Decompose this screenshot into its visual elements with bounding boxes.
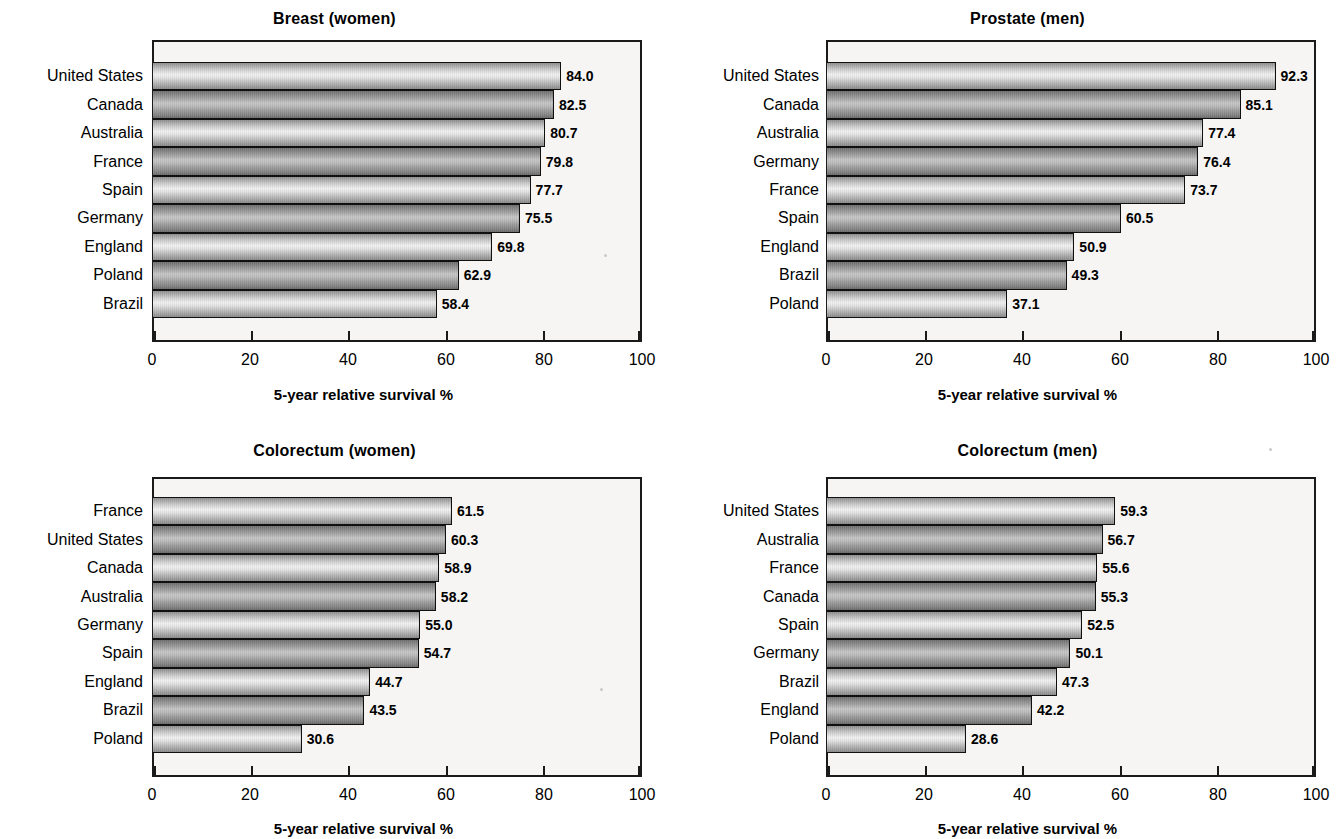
category-label: Australia xyxy=(0,582,150,610)
bar[interactable]: 69.8 xyxy=(153,233,492,261)
bar[interactable]: 42.2 xyxy=(827,696,1032,724)
bar-row: 85.1 xyxy=(828,90,1314,118)
bar[interactable]: 62.9 xyxy=(153,261,459,289)
bar[interactable]: 30.6 xyxy=(153,725,302,753)
chart-title: Prostate (men) xyxy=(669,10,1338,28)
bar[interactable]: 50.9 xyxy=(827,233,1074,261)
x-axis-title: 5-year relative survival % xyxy=(0,820,669,837)
bar[interactable]: 73.7 xyxy=(827,176,1185,204)
bar[interactable]: 54.7 xyxy=(153,639,419,667)
bar[interactable]: 79.8 xyxy=(153,147,541,175)
bar[interactable]: 58.9 xyxy=(153,554,439,582)
x-axis-title: 5-year relative survival % xyxy=(0,386,669,403)
category-label: Australia xyxy=(679,119,826,147)
bar[interactable]: 80.7 xyxy=(153,119,545,147)
bar-row: 47.3 xyxy=(828,668,1314,696)
bar[interactable]: 58.2 xyxy=(153,582,436,610)
bar[interactable]: 59.3 xyxy=(827,497,1115,525)
x-tick-label: 100 xyxy=(629,787,656,803)
bar-value-label: 59.3 xyxy=(1120,504,1147,518)
bar[interactable]: 77.7 xyxy=(153,176,531,204)
x-tick-label: 80 xyxy=(535,787,553,803)
plot-area: 61.5 60.3 58.9 58.2 55.0 54.7 44.7 43.5 … xyxy=(152,477,642,777)
bar-row: 58.9 xyxy=(154,554,640,582)
category-axis-labels: France United States Canada Australia Ge… xyxy=(0,497,150,753)
chart-panel-colorectum-men: Colorectum (men) United States Australia… xyxy=(669,420,1338,839)
x-tick-label: 40 xyxy=(339,352,357,368)
bar[interactable]: 43.5 xyxy=(153,696,364,724)
bar-value-label: 77.7 xyxy=(536,183,563,197)
bar-value-label: 77.4 xyxy=(1208,126,1235,140)
bar-row: 52.5 xyxy=(828,611,1314,639)
x-tick-label: 60 xyxy=(437,352,455,368)
chart-title: Breast (women) xyxy=(0,10,669,28)
x-tick xyxy=(828,331,830,340)
bar[interactable]: 49.3 xyxy=(827,261,1067,289)
bar[interactable]: 58.4 xyxy=(153,290,437,318)
bar-value-label: 84.0 xyxy=(566,69,593,83)
category-label: United States xyxy=(0,62,150,90)
x-tick xyxy=(1120,766,1122,775)
scan-speck xyxy=(600,688,603,691)
x-tick xyxy=(1120,331,1122,340)
chart-panel-breast-women: Breast (women) United States Canada Aust… xyxy=(0,0,669,420)
bar-value-label: 79.8 xyxy=(546,155,573,169)
bar-value-label: 82.5 xyxy=(559,98,586,112)
category-label: England xyxy=(0,233,150,261)
bar-row: 28.6 xyxy=(828,725,1314,753)
bar-series: 84.0 82.5 80.7 79.8 77.7 75.5 69.8 62.9 … xyxy=(154,62,640,318)
x-tick xyxy=(348,331,350,340)
category-axis-labels: United States Canada Australia France Sp… xyxy=(0,62,150,318)
category-label: Canada xyxy=(0,90,150,118)
category-label: Germany xyxy=(679,147,826,175)
bar-row: 43.5 xyxy=(154,696,640,724)
x-axis-title: 5-year relative survival % xyxy=(669,386,1338,403)
x-tick xyxy=(446,766,448,775)
x-tick-label: 100 xyxy=(629,352,656,368)
bar[interactable]: 55.6 xyxy=(827,554,1097,582)
category-label: Germany xyxy=(0,611,150,639)
bar[interactable]: 82.5 xyxy=(153,90,554,118)
bar-value-label: 42.2 xyxy=(1037,703,1064,717)
bar[interactable]: 50.1 xyxy=(827,639,1070,667)
category-label: Spain xyxy=(679,204,826,232)
category-label: Canada xyxy=(679,90,826,118)
category-label: Germany xyxy=(0,204,150,232)
bar[interactable]: 61.5 xyxy=(153,497,452,525)
x-tick xyxy=(348,766,350,775)
bar-row: 55.6 xyxy=(828,554,1314,582)
bar[interactable]: 84.0 xyxy=(153,62,561,90)
category-label: Germany xyxy=(679,639,826,667)
bar-row: 73.7 xyxy=(828,176,1314,204)
bar-value-label: 43.5 xyxy=(369,703,396,717)
x-tick xyxy=(925,331,927,340)
bar[interactable]: 60.5 xyxy=(827,204,1121,232)
bar[interactable]: 56.7 xyxy=(827,525,1103,553)
category-label: France xyxy=(679,554,826,582)
x-tick xyxy=(154,766,156,775)
x-tick-label: 20 xyxy=(241,787,259,803)
category-label: Brazil xyxy=(0,696,150,724)
bar[interactable]: 52.5 xyxy=(827,611,1082,639)
bar[interactable]: 85.1 xyxy=(827,90,1241,118)
x-tick-label: 100 xyxy=(1303,787,1330,803)
x-tick xyxy=(1312,331,1314,340)
x-axis-title: 5-year relative survival % xyxy=(669,820,1338,837)
bar[interactable]: 76.4 xyxy=(827,147,1198,175)
bar[interactable]: 75.5 xyxy=(153,204,520,232)
bar[interactable]: 47.3 xyxy=(827,668,1057,696)
bar[interactable]: 92.3 xyxy=(827,62,1276,90)
bar-value-label: 69.8 xyxy=(497,240,524,254)
bar-value-label: 55.0 xyxy=(425,618,452,632)
bar-value-label: 55.3 xyxy=(1101,590,1128,604)
x-tick-label: 40 xyxy=(1013,787,1031,803)
bar[interactable]: 55.0 xyxy=(153,611,420,639)
bar[interactable]: 28.6 xyxy=(827,725,966,753)
bar[interactable]: 55.3 xyxy=(827,582,1096,610)
bar[interactable]: 60.3 xyxy=(153,525,446,553)
bar[interactable]: 77.4 xyxy=(827,119,1203,147)
bar[interactable]: 37.1 xyxy=(827,290,1007,318)
x-tick xyxy=(828,766,830,775)
category-label: Canada xyxy=(0,554,150,582)
bar[interactable]: 44.7 xyxy=(153,668,370,696)
